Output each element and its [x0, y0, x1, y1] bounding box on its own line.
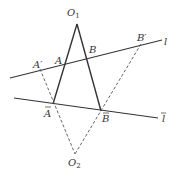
label-b-bar: B [101, 113, 109, 124]
label-b-prime: B′ [136, 32, 147, 43]
label-l: l [164, 36, 167, 47]
label-o1: O1 [67, 7, 80, 20]
svg-text:l: l [162, 113, 165, 124]
svg-text:A: A [43, 108, 51, 119]
label-a: A [54, 55, 62, 66]
label-a-bar: A [43, 107, 51, 119]
svg-text:B: B [101, 113, 109, 124]
dashed-bprime-o2 [75, 44, 141, 154]
label-b: B [88, 44, 96, 55]
geometry-diagram: O1 A B A′ B′ l A B l O2 [0, 0, 176, 178]
label-l-bar: l [161, 113, 166, 124]
label-o2: O2 [68, 157, 81, 170]
line-l-bar [14, 98, 158, 118]
segment-o1-bbar [77, 24, 101, 111]
label-a-prime: A′ [32, 59, 43, 70]
